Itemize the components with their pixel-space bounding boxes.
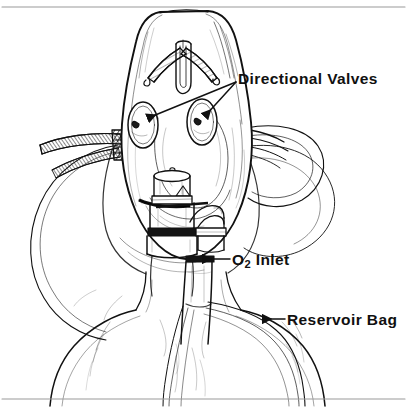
label-o2-inlet: O2 Inlet bbox=[232, 252, 290, 271]
label-reservoir-bag: Reservoir Bag bbox=[287, 312, 397, 328]
valve-disc-left bbox=[128, 102, 158, 148]
illustration-figure: Directional Valves O2 Inlet Reservoir Ba… bbox=[0, 0, 407, 410]
label-directional-valves: Directional Valves bbox=[238, 71, 378, 87]
label-o2-inlet-prefix: O bbox=[232, 252, 244, 268]
reservoir-bag bbox=[86, 302, 305, 406]
oxygen-mask-line-drawing bbox=[0, 0, 407, 410]
valve-disc-right bbox=[187, 99, 217, 145]
label-o2-inlet-suffix: Inlet bbox=[251, 251, 290, 268]
strap-left bbox=[31, 130, 126, 340]
